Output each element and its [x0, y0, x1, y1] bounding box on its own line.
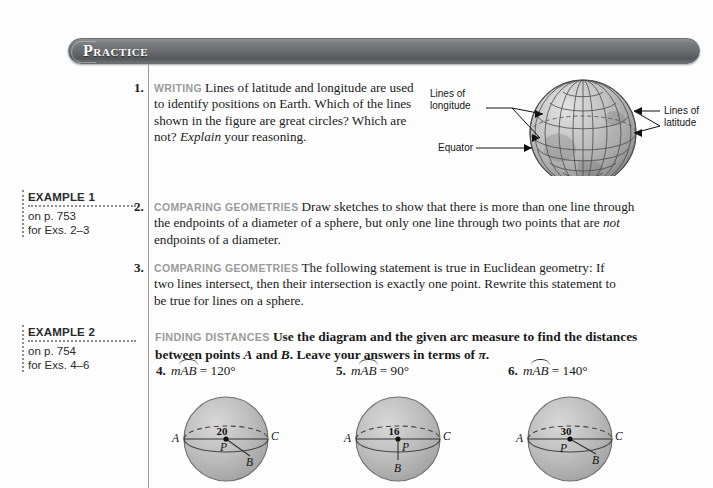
svg-text:P: P: [219, 441, 227, 453]
exercise-1-tag: WRITING: [154, 82, 202, 94]
problem-4-value: 120°: [211, 363, 236, 378]
svg-text:A: A: [171, 432, 180, 444]
example-ref-2-page: on p. 754: [28, 342, 136, 358]
globe-label-latitude-line2: latitude: [664, 117, 699, 129]
problem-6-value: 140°: [563, 363, 588, 378]
example-ref-box-2: EXAMPLE 2 on p. 754 for Exs. 4–6: [28, 325, 136, 372]
problem-5-arc: AB: [360, 363, 376, 379]
finding-distances-tag: FINDING DISTANCES: [155, 331, 270, 343]
finding-distances-mid-2: . Leave your answers in terms of: [290, 347, 479, 362]
exercise-3-tag: COMPARING GEOMETRIES: [154, 262, 298, 274]
svg-text:P: P: [401, 441, 409, 453]
svg-text:A: A: [515, 432, 524, 444]
example-ref-1-page: on p. 753: [28, 207, 136, 223]
exercise-1-text-2: your reasoning.: [221, 129, 306, 144]
example-ref-2-exs: for Exs. 4–6: [28, 358, 136, 372]
exercise-1-number: 1.: [134, 80, 144, 96]
problem-6-equals: =: [552, 363, 559, 378]
exercise-1-body: WRITINGLines of latitude and longitude a…: [154, 80, 424, 146]
exercise-2-text-2: endpoints of a diameter.: [154, 232, 281, 247]
svg-text:A: A: [343, 432, 352, 444]
svg-text:16: 16: [389, 425, 401, 437]
practice-header-bar: Practice: [68, 38, 700, 64]
globe-label-latitude: Lines of latitude: [664, 105, 699, 128]
problem-6-heading: 6.mAB = 140°: [508, 363, 588, 379]
exercise-2: 2. COMPARING GEOMETRIESDraw sketches to …: [134, 199, 642, 248]
globe-figure: Lines of longitude Equator Lines of lati…: [428, 76, 713, 176]
sphere-diagram-6: 30 P A C B: [512, 390, 632, 488]
problem-6-arc-bar: [531, 359, 549, 365]
exercise-3-number: 3.: [134, 260, 144, 276]
problem-5-m: m: [351, 363, 361, 378]
finding-distances-mid-1: and: [252, 347, 280, 362]
problem-4-heading: 4.mAB = 120°: [156, 363, 236, 379]
problem-4-arc-label: AB: [180, 363, 196, 378]
svg-text:C: C: [443, 430, 451, 442]
svg-text:C: C: [271, 430, 279, 442]
svg-text:B: B: [246, 456, 253, 468]
svg-text:P: P: [559, 442, 567, 454]
exercise-3: 3. COMPARING GEOMETRIESThe following sta…: [134, 260, 624, 309]
example-ref-1-exs: for Exs. 2–3: [28, 223, 136, 237]
globe-label-longitude: Lines of longitude: [430, 88, 471, 111]
problem-4-m: m: [171, 363, 181, 378]
svg-text:B: B: [592, 454, 599, 466]
problem-4-equals: =: [200, 363, 207, 378]
example-ref-1-title: EXAMPLE 1: [28, 190, 136, 205]
globe-label-equator: Equator: [438, 142, 473, 154]
exercise-2-tag: COMPARING GEOMETRIES: [154, 201, 298, 213]
globe-label-longitude-line1: Lines of: [430, 88, 471, 100]
problem-6-arc: AB: [532, 363, 548, 379]
finding-distances-end: .: [486, 347, 489, 362]
problem-5-arc-label: AB: [360, 363, 376, 378]
finding-distances-var-b: B: [281, 347, 290, 362]
svg-text:20: 20: [217, 425, 229, 437]
problem-5-number: 5.: [336, 363, 346, 378]
example-ref-box-1: EXAMPLE 1 on p. 753 for Exs. 2–3: [28, 190, 136, 237]
exercise-1: 1. WRITINGLines of latitude and longitud…: [134, 80, 424, 146]
exercise-2-italic: not: [603, 215, 620, 230]
sphere-diagram-5: 16 P A C B: [340, 390, 460, 488]
finding-distances-pi: π: [478, 347, 485, 362]
example-box-2-left-dots: [22, 325, 24, 372]
problem-6-number: 6.: [508, 363, 518, 378]
example-ref-2-title: EXAMPLE 2: [28, 325, 136, 340]
example-box-1-left-dots: [22, 190, 24, 237]
problem-6-arc-label: AB: [532, 363, 548, 378]
exercise-2-number: 2.: [134, 199, 144, 215]
exercise-1-italic: Explain: [180, 129, 221, 144]
svg-text:B: B: [394, 462, 401, 474]
problem-5-heading: 5.mAB = 90°: [336, 363, 409, 379]
problem-5-arc-bar: [359, 359, 377, 365]
problem-4-arc: AB: [180, 363, 196, 379]
sphere-diagram-4: 20 P A C B: [168, 390, 288, 488]
practice-page: Practice EXAMPLE 1 on p. 753 for Exs. 2–…: [0, 0, 713, 488]
problem-5-equals: =: [380, 363, 387, 378]
svg-text:30: 30: [561, 425, 573, 437]
finding-distances-instruction: FINDING DISTANCESUse the diagram and the…: [155, 328, 660, 363]
problem-6-m: m: [523, 363, 533, 378]
problem-4-number: 4.: [156, 363, 166, 378]
exercise-3-body: COMPARING GEOMETRIESThe following statem…: [154, 260, 624, 309]
problem-4-arc-bar: [179, 359, 197, 365]
globe-label-longitude-line2: longitude: [430, 100, 471, 112]
page-title: Practice: [83, 42, 148, 60]
exercise-2-body: COMPARING GEOMETRIESDraw sketches to sho…: [154, 199, 642, 248]
problem-5-value: 90°: [391, 363, 409, 378]
globe-label-latitude-line1: Lines of: [664, 105, 699, 117]
svg-text:C: C: [615, 430, 623, 442]
